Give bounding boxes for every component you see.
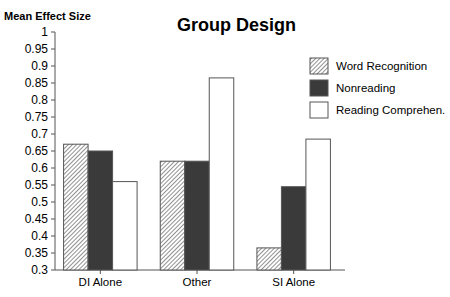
y-tick-label: 0.3 <box>31 263 48 277</box>
y-tick-label: 0.7 <box>31 127 48 141</box>
y-tick-label: 0.5 <box>31 195 48 209</box>
legend-label: Reading Comprehen. <box>336 104 445 116</box>
bar <box>64 144 88 270</box>
x-category-label: DI Alone <box>79 276 122 288</box>
chart-title: Group Design <box>177 15 296 35</box>
bar <box>209 78 234 270</box>
bar <box>113 182 138 270</box>
legend-swatch <box>310 58 328 74</box>
y-tick-label: 0.65 <box>25 144 49 158</box>
legend: Word RecognitionNonreadingReading Compre… <box>310 58 445 118</box>
y-tick-label: 0.35 <box>25 246 49 260</box>
y-tick-label: 0.55 <box>25 178 49 192</box>
y-tick-label: 0.85 <box>25 76 49 90</box>
bars <box>64 78 331 270</box>
bar <box>160 161 185 270</box>
y-tick-label: 0.8 <box>31 93 48 107</box>
y-tick-label: 0.95 <box>25 42 49 56</box>
x-category-label: Other <box>183 276 212 288</box>
y-tick-label: 0.75 <box>25 110 49 124</box>
legend-label: Nonreading <box>336 82 395 94</box>
bar <box>257 248 282 270</box>
y-axis: 10.950.90.850.80.750.70.650.60.550.50.45… <box>25 25 55 277</box>
legend-label: Word Recognition <box>336 60 427 72</box>
y-tick-label: 0.9 <box>31 59 48 73</box>
bar <box>306 139 331 270</box>
y-tick-label: 0.4 <box>31 229 48 243</box>
x-category-label: SI Alone <box>272 276 315 288</box>
bar <box>185 161 210 270</box>
bar <box>88 151 113 270</box>
legend-swatch <box>310 102 328 118</box>
chart: Mean Effect Size Group Design 10.950.90.… <box>0 0 450 297</box>
y-axis-label: Mean Effect Size <box>4 10 91 22</box>
y-tick-label: 1 <box>41 25 48 39</box>
legend-swatch <box>310 80 328 96</box>
bar <box>281 187 306 270</box>
y-tick-label: 0.6 <box>31 161 48 175</box>
y-tick-label: 0.45 <box>25 212 49 226</box>
x-axis: DI AloneOtherSI Alone <box>55 270 345 288</box>
